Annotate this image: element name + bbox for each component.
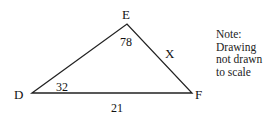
side-ef-label: X [165, 46, 175, 61]
triangle-diagram: E D F 78 32 X 21 Note: Drawing not drawn… [0, 0, 269, 120]
note-line: not drawn [216, 53, 262, 66]
angle-e-value: 78 [120, 35, 132, 49]
vertex-label-e: E [122, 7, 130, 22]
side-df-label: 21 [111, 101, 123, 115]
note-line: Drawing [216, 41, 262, 54]
scale-note: Note: Drawing not drawn to scale [216, 28, 262, 78]
note-line: Note: [216, 28, 262, 41]
vertex-label-d: D [14, 87, 23, 102]
vertex-label-f: F [195, 87, 202, 102]
angle-d-value: 32 [56, 80, 68, 94]
note-line: to scale [216, 66, 262, 79]
